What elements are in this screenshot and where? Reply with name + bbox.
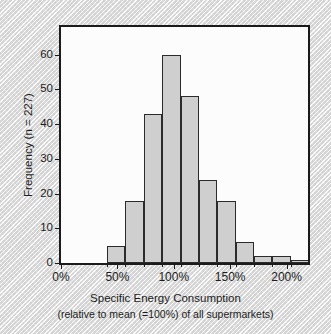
- figure-canvas: Frequency (n = 227) 0102030405060 0%50%1…: [0, 0, 331, 334]
- x-axis-tick-label: 50%: [105, 271, 129, 283]
- histogram-bar: [236, 242, 254, 263]
- histogram-bar: [217, 201, 235, 263]
- x-axis-minor-tick-mark: [272, 263, 273, 267]
- x-axis-label: Specific Energy Consumption: [0, 291, 331, 305]
- histogram-bar: [125, 201, 143, 263]
- x-axis-minor-tick-mark: [254, 263, 255, 267]
- x-axis-tick-mark: [174, 263, 175, 269]
- x-axis-minor-tick-mark: [199, 263, 200, 267]
- histogram-bar: [272, 256, 290, 263]
- x-axis-minor-tick-mark: [107, 263, 108, 267]
- y-axis-tick-label: 50: [40, 84, 53, 96]
- histogram-bar: [199, 180, 217, 263]
- x-axis-tick-mark: [287, 263, 288, 269]
- histogram-bar: [254, 256, 272, 263]
- x-axis-minor-tick-mark: [236, 263, 237, 267]
- y-axis-tick-label: 40: [40, 118, 53, 130]
- plot-frame: Frequency (n = 227) 0102030405060 0%50%1…: [59, 25, 310, 265]
- y-axis-tick-label: 20: [40, 188, 53, 200]
- x-axis-tick-label: 200%: [271, 271, 302, 283]
- x-axis-sublabel: (relative to mean (=100%) of all superma…: [0, 307, 331, 321]
- plot-area: [61, 27, 308, 263]
- x-axis-tick-mark: [117, 263, 118, 269]
- x-axis-minor-tick-mark: [217, 263, 218, 267]
- x-axis-tick-label: 150%: [215, 271, 246, 283]
- y-axis-tick-label: 60: [40, 49, 53, 61]
- y-axis-tick-label: 10: [40, 223, 53, 235]
- y-axis-tick-label: 30: [40, 153, 53, 165]
- y-axis-tick-label: 0: [47, 257, 53, 269]
- histogram-bar: [291, 260, 308, 263]
- histogram-bar: [144, 114, 162, 263]
- x-axis-tick-mark: [230, 263, 231, 269]
- x-axis-minor-tick-mark: [181, 263, 182, 267]
- x-axis-minor-tick-mark: [144, 263, 145, 267]
- histogram-bar: [162, 55, 180, 263]
- histogram-bar: [107, 246, 125, 263]
- x-axis-minor-tick-mark: [291, 263, 292, 267]
- histogram-bar: [181, 96, 199, 263]
- x-axis-tick-mark: [61, 263, 62, 269]
- x-axis-tick-label: 100%: [158, 271, 189, 283]
- x-axis-minor-tick-mark: [125, 263, 126, 267]
- y-axis-label: Frequency (n = 227): [23, 93, 35, 197]
- x-axis-caption-block: Specific Energy Consumption (relative to…: [0, 291, 331, 321]
- x-axis-tick-label: 0%: [52, 271, 69, 283]
- x-axis-minor-tick-mark: [162, 263, 163, 267]
